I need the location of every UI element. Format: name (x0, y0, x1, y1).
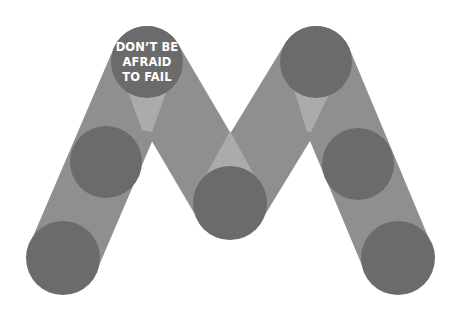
slogan-line-3: TO FAIL (107, 70, 187, 85)
circle-bottom-left (26, 221, 100, 295)
circle-bottom-right (361, 221, 435, 295)
circle-center-bottom (193, 166, 267, 240)
slogan-text: DON’T BE AFRAID TO FAIL (107, 40, 187, 85)
circle-left-middle (70, 126, 142, 198)
m-logo-graphic (0, 0, 458, 312)
slogan-line-2: AFRAID (107, 55, 187, 70)
slogan-line-1: DON’T BE (107, 40, 187, 55)
circle-right-middle (322, 128, 394, 200)
circle-top-right (280, 26, 352, 98)
